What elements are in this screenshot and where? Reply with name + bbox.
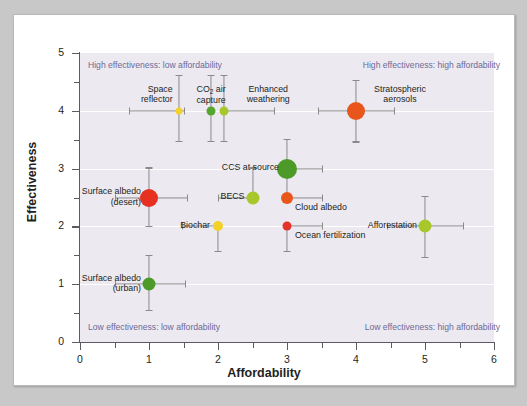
- y-tick-label: 5: [42, 46, 64, 58]
- error-bar-cap: [274, 107, 275, 114]
- data-point[interactable]: [175, 107, 182, 114]
- error-bar-cap: [353, 141, 360, 142]
- x-tick-minor: [391, 343, 392, 348]
- error-bar-cap: [184, 107, 185, 114]
- data-point[interactable]: [277, 159, 297, 179]
- x-tick-major: [494, 343, 495, 350]
- y-tick-label: 0: [42, 335, 64, 347]
- x-tick-major: [218, 343, 219, 350]
- data-point[interactable]: [220, 106, 229, 115]
- data-point-label: Surface albedo(urban): [53, 273, 141, 294]
- error-bar-cap: [322, 194, 323, 201]
- x-tick-minor: [184, 343, 185, 348]
- x-tick-label: 5: [414, 353, 436, 365]
- error-bar-cap: [284, 251, 291, 252]
- error-bar-cap: [175, 75, 182, 76]
- x-tick-major: [356, 343, 357, 350]
- error-bar-cap: [185, 281, 186, 288]
- y-axis-title: Effectiveness: [25, 102, 39, 262]
- error-bar-cap: [208, 75, 215, 76]
- error-bar-cap: [353, 80, 360, 81]
- error-bar-cap: [422, 196, 429, 197]
- data-point[interactable]: [281, 192, 293, 204]
- y-tick-major: [72, 111, 79, 112]
- data-point-label: Biochar: [122, 220, 210, 231]
- data-point[interactable]: [143, 278, 156, 291]
- data-point-label: CCS at source: [191, 162, 279, 173]
- error-bar-horizontal: [287, 226, 322, 227]
- quadrant-label-bottom-right: Low effectiveness: high affordability: [365, 322, 500, 332]
- x-tick-major: [287, 343, 288, 350]
- y-tick-major: [72, 342, 79, 343]
- y-tick-label: 3: [42, 162, 64, 174]
- error-bar-cap: [322, 223, 323, 230]
- y-tick-minor: [74, 313, 79, 314]
- x-tick-major: [149, 343, 150, 350]
- quadrant-label-top-left: High effectiveness: low affordability: [88, 60, 222, 70]
- data-point-label: Surface albedo(desert): [53, 186, 141, 207]
- y-tick-label: 2: [42, 219, 64, 231]
- data-point[interactable]: [213, 221, 223, 231]
- chart-card: 012345 0123456 Affordability Effectivene…: [13, 14, 515, 386]
- y-tick-major: [72, 226, 79, 227]
- data-point-label: Spacereflector: [95, 84, 173, 105]
- x-tick-minor: [460, 343, 461, 348]
- chart-screenshot: 012345 0123456 Affordability Effectivene…: [0, 0, 527, 406]
- x-tick-label: 4: [345, 353, 367, 365]
- error-bar-cap: [215, 251, 222, 252]
- error-bar-cap: [146, 255, 153, 256]
- error-bar-cap: [146, 167, 153, 168]
- error-bar-cap: [422, 257, 429, 258]
- error-bar-cap: [175, 141, 182, 142]
- error-bar-cap: [146, 310, 153, 311]
- data-point[interactable]: [207, 106, 216, 115]
- error-bar-cap: [208, 141, 215, 142]
- x-tick-major: [425, 343, 426, 350]
- error-bar-cap: [284, 139, 291, 140]
- y-tick-minor: [74, 82, 79, 83]
- data-point[interactable]: [140, 189, 158, 207]
- x-tick-label: 6: [483, 353, 505, 365]
- data-point-label: BECS: [157, 191, 245, 202]
- x-tick-minor: [115, 343, 116, 348]
- error-bar-cap: [318, 107, 319, 114]
- data-point-label: Ocean fertilization: [295, 230, 390, 241]
- x-tick-label: 2: [207, 353, 229, 365]
- x-tick-label: 3: [276, 353, 298, 365]
- y-tick-minor: [74, 140, 79, 141]
- data-point-label: Cloud albedo: [295, 202, 390, 213]
- data-point[interactable]: [419, 220, 432, 233]
- x-axis-title: Affordability: [14, 366, 514, 380]
- y-tick-minor: [74, 255, 79, 256]
- error-bar-horizontal: [224, 110, 274, 111]
- quadrant-label-bottom-left: Low effectiveness: low affordability: [88, 322, 220, 332]
- data-point-label: Afforestation: [329, 220, 417, 231]
- x-tick-minor: [253, 343, 254, 348]
- data-point[interactable]: [246, 191, 259, 204]
- error-bar-cap: [463, 223, 464, 230]
- error-bar-cap: [221, 141, 228, 142]
- data-point[interactable]: [283, 222, 292, 231]
- x-tick-label: 0: [69, 353, 91, 365]
- error-bar-cap: [221, 75, 228, 76]
- error-bar-cap: [129, 107, 130, 114]
- quadrant-label-top-right: High effectiveness: high affordability: [363, 60, 500, 70]
- y-tick-major: [72, 169, 79, 170]
- y-tick-major: [72, 53, 79, 54]
- x-tick-label: 1: [138, 353, 160, 365]
- data-point-label: Stratosphericaerosols: [360, 84, 440, 105]
- y-tick-label: 4: [42, 104, 64, 116]
- x-tick-minor: [322, 343, 323, 348]
- x-tick-major: [80, 343, 81, 350]
- error-bar-cap: [394, 107, 395, 114]
- error-bar-cap: [322, 165, 323, 172]
- data-point-label: Enhancedweathering: [228, 84, 308, 105]
